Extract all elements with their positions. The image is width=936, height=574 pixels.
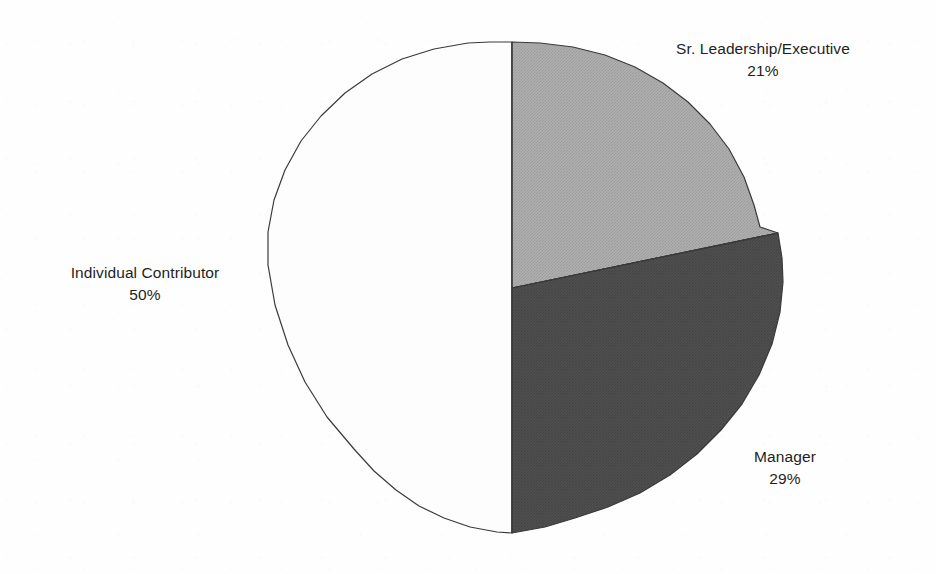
- slice-label-percent: 29%: [700, 468, 870, 490]
- pie-chart-page: Sr. Leadership/Executive 21% Manager 29%…: [0, 0, 936, 574]
- pie-slice-individual-contributor[interactable]: [268, 42, 512, 533]
- slice-label-sr-leadership-executive: Sr. Leadership/Executive 21%: [636, 38, 890, 82]
- slice-label-name: Individual Contributor: [71, 264, 220, 281]
- slice-label-percent: 21%: [636, 60, 890, 82]
- slice-label-individual-contributor: Individual Contributor 50%: [36, 262, 254, 306]
- slice-label-percent: 50%: [36, 284, 254, 306]
- slice-label-name: Manager: [754, 448, 816, 465]
- slice-label-manager: Manager 29%: [700, 446, 870, 490]
- slice-label-name: Sr. Leadership/Executive: [676, 40, 850, 57]
